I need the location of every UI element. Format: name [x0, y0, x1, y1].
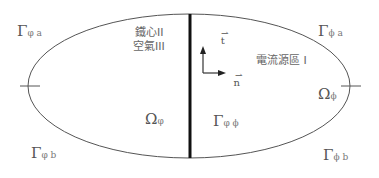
region-label-current-source: 電流源區 I — [256, 55, 307, 66]
diagram-canvas: Γφ a Γϕ a Γφ b Γϕ b Γφ ϕ Ωφ Ωϕ 鐵心II 空氣II… — [0, 0, 379, 178]
tangent-arrow-head — [200, 46, 206, 54]
boundary-label-top-right: Γϕ a — [318, 23, 343, 39]
domain-subscript: φ — [157, 116, 163, 126]
tangent-vector-label: ⇀ t — [219, 30, 227, 46]
domain-subscript: ϕ — [330, 91, 336, 101]
normal-arrow-head — [218, 70, 226, 76]
boundary-subscript: φ ϕ — [223, 118, 238, 128]
region-label-air: 空氣III — [133, 41, 165, 52]
vector-arrow-icon: ⇀ — [235, 72, 243, 78]
gamma-symbol: Γ — [318, 22, 328, 40]
interface-boundary-label: Γφ ϕ — [213, 113, 239, 129]
normal-vector-label: ⇀ n — [233, 72, 241, 88]
omega-symbol: Ω — [318, 85, 330, 103]
gamma-symbol: Γ — [323, 146, 333, 164]
boundary-subscript: ϕ b — [333, 152, 348, 162]
region-label-iron-core: 鐵心II — [135, 27, 164, 38]
gamma-symbol: Γ — [213, 112, 223, 130]
boundary-label-bottom-left: Γφ b — [31, 145, 56, 161]
boundary-label-top-left: Γφ a — [17, 23, 42, 39]
boundary-subscript: φ b — [41, 150, 56, 160]
gamma-symbol: Γ — [17, 22, 27, 40]
domain-label-right: Ωϕ — [318, 86, 337, 102]
omega-symbol: Ω — [145, 110, 157, 128]
boundary-label-bottom-right: Γϕ b — [323, 147, 348, 163]
domain-label-left: Ωφ — [145, 111, 164, 127]
gamma-symbol: Γ — [31, 144, 41, 162]
boundary-subscript: ϕ a — [328, 28, 342, 38]
vector-arrow-icon: ⇀ — [221, 30, 229, 36]
boundary-subscript: φ a — [27, 28, 42, 38]
